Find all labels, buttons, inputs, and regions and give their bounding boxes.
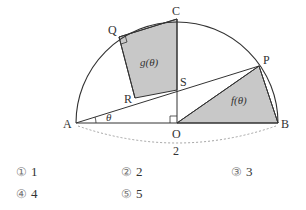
region-g-label: g(θ) <box>140 56 159 69</box>
region-f <box>177 66 278 123</box>
right-angle-O <box>170 116 177 123</box>
choice-value: 4 <box>31 186 38 201</box>
choice-value: 5 <box>136 186 143 201</box>
label-R: R <box>124 92 132 106</box>
choice-value: 1 <box>31 164 38 179</box>
label-Q: Q <box>108 23 117 37</box>
diameter-label: 2 <box>173 144 179 158</box>
region-f-label: f(θ) <box>231 94 247 107</box>
choice-2[interactable]: ②2 <box>121 164 143 180</box>
choice-mark: ③ <box>231 165 242 179</box>
label-C: C <box>172 4 180 18</box>
choice-mark: ④ <box>16 187 27 201</box>
answer-choices: ①1 ②2 ③3 ④4 ⑤5 <box>0 164 306 210</box>
angle-arc-A <box>95 117 96 123</box>
label-O: O <box>172 127 181 141</box>
label-S: S <box>180 75 187 89</box>
angle-theta-label: θ <box>106 111 112 123</box>
label-P: P <box>263 53 270 67</box>
choice-1[interactable]: ①1 <box>16 164 38 180</box>
choice-mark: ① <box>16 165 27 179</box>
choice-mark: ② <box>121 165 132 179</box>
label-A: A <box>63 117 72 131</box>
choice-5[interactable]: ⑤5 <box>121 186 143 202</box>
choice-4[interactable]: ④4 <box>16 186 38 202</box>
semicircle-diagram: 2 A B C O P Q R S θ g(θ) f(θ) <box>0 0 306 160</box>
label-B: B <box>281 117 289 131</box>
choice-value: 3 <box>246 164 253 179</box>
choice-3[interactable]: ③3 <box>231 164 253 180</box>
choice-mark: ⑤ <box>121 187 132 201</box>
choice-value: 2 <box>136 164 143 179</box>
